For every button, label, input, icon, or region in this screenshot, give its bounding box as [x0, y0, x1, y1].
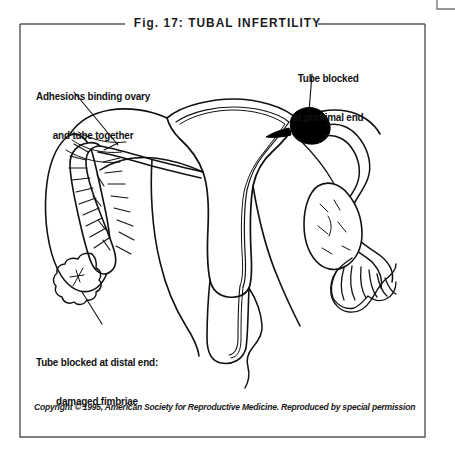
callout-proximal-line1: Tube blocked	[293, 72, 363, 85]
right-ovary	[304, 183, 362, 269]
callout-adhesions-line2: and tube together	[36, 129, 150, 142]
callout-proximal-line2: at proximal end	[293, 111, 363, 124]
figure-container: Fig. 17: TUBAL INFERTILITY Adhesions bin…	[0, 0, 455, 453]
callout-adhesions: Adhesions binding ovary and tube togethe…	[36, 64, 150, 168]
fimbriae-fingers	[332, 266, 396, 300]
uterus-body	[167, 99, 298, 297]
figure-title: Fig. 17: TUBAL INFERTILITY	[11, 16, 443, 30]
left-uterus-side	[151, 160, 199, 356]
callout-adhesions-line1: Adhesions binding ovary	[36, 90, 150, 103]
callout-distal-line1: Tube blocked at distal end:	[36, 356, 158, 369]
leader-distal	[82, 292, 102, 324]
right-fimbriae-normal	[331, 258, 396, 312]
callout-distal: Tube blocked at distal end: damaged fimb…	[36, 330, 158, 434]
copyright-notice: Copyright © 1995, American Society for R…	[34, 402, 415, 412]
right-uterus-side	[253, 186, 300, 326]
callout-proximal: Tube blocked at proximal end	[293, 46, 363, 150]
